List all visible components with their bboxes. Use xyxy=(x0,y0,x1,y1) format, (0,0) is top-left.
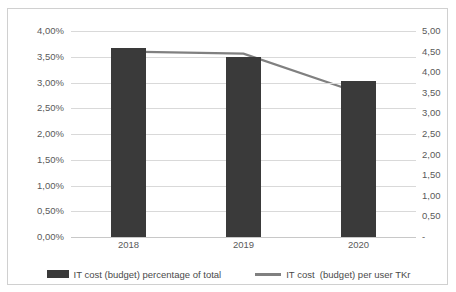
right-axis-tick-label: 5,00 xyxy=(422,26,441,36)
legend-item-1[interactable]: IT cost (budget) percentage of total xyxy=(47,269,222,280)
chart-container: 4,00%3,50%3,00%2,50%2,00%1,50%1,00%0,50%… xyxy=(7,8,448,285)
left-axis-tick-label: 1,50% xyxy=(37,155,64,165)
left-axis-tick-label: 1,00% xyxy=(37,181,64,191)
legend-label: IT cost (budget) per user TKr xyxy=(286,269,410,280)
left-value-axis: 4,00%3,50%3,00%2,50%2,00%1,50%1,00%0,50%… xyxy=(16,31,64,237)
right-axis-tick-label: 0,50 xyxy=(422,211,441,221)
right-axis-tick-label: 2,00 xyxy=(422,150,441,160)
left-axis-tick-label: 4,00% xyxy=(37,26,64,36)
left-axis-tick-label: 2,50% xyxy=(37,103,64,113)
right-axis-tick-label: 1,50 xyxy=(422,170,441,180)
left-axis-tick-label: 2,00% xyxy=(37,129,64,139)
right-axis-tick-label: 3,50 xyxy=(422,88,441,98)
right-axis-tick-label: 4,00 xyxy=(422,67,441,77)
chart-legend: IT cost (budget) percentage of totalIT c… xyxy=(8,265,449,283)
left-axis-tick-label: 0,00% xyxy=(37,232,64,242)
legend-label: IT cost (budget) percentage of total xyxy=(74,269,222,280)
right-axis-tick-label: 3,00 xyxy=(422,108,441,118)
right-value-axis: 5,004,504,003,503,002,502,001,501,000,50… xyxy=(422,31,456,237)
plot-area xyxy=(71,31,416,237)
category-label-2020: 2020 xyxy=(348,239,369,250)
category-label-2019: 2019 xyxy=(233,239,254,250)
bar-swatch-icon xyxy=(47,270,69,278)
left-axis-tick-label: 0,50% xyxy=(37,206,64,216)
legend-item-2[interactable]: IT cost (budget) per user TKr xyxy=(255,269,410,280)
right-axis-tick-label: 4,50 xyxy=(422,47,441,57)
right-axis-tick-label: 2,50 xyxy=(422,129,441,139)
bar-2019 xyxy=(226,57,261,237)
category-axis: 201820192020 xyxy=(71,239,416,255)
left-axis-tick-label: 3,00% xyxy=(37,78,64,88)
right-axis-tick-label: - xyxy=(422,232,425,242)
bar-2018 xyxy=(111,48,146,237)
bar-2020 xyxy=(341,81,376,237)
left-axis-tick-label: 3,50% xyxy=(37,52,64,62)
line-swatch-icon xyxy=(255,273,281,276)
category-label-2018: 2018 xyxy=(118,239,139,250)
gridline xyxy=(71,237,416,238)
right-axis-tick-label: 1,00 xyxy=(422,191,441,201)
gridline xyxy=(71,31,416,32)
